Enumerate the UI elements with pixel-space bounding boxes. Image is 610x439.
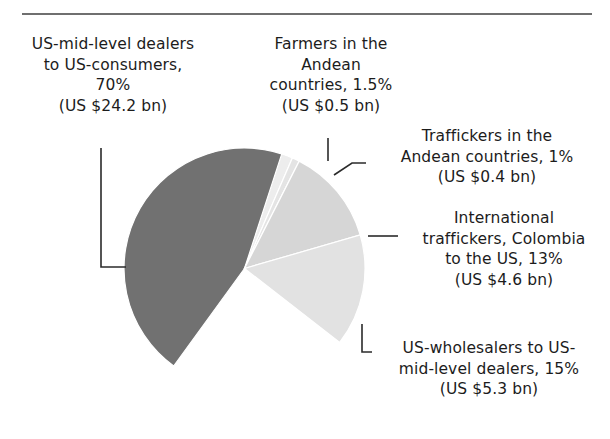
pie-chart-figure: US-mid-level dealers to US-consumers, 70… bbox=[0, 0, 610, 439]
slice-label-traffickers-andean: Traffickers in the Andean countries, 1% … bbox=[368, 126, 606, 188]
slice-label-international-traffickers: International traffickers, Colombia to t… bbox=[400, 208, 608, 290]
slice-label-us-wholesalers: US-wholesalers to US- mid-level dealers,… bbox=[370, 338, 608, 400]
slice-label-us-mid-level-dealers: US-mid-level dealers to US-consumers, 70… bbox=[8, 34, 218, 116]
leader-line-traffickers-andean bbox=[334, 163, 366, 175]
pie-slices-group bbox=[124, 148, 365, 366]
slice-label-farmers-andean: Farmers in the Andean countries, 1.5% (U… bbox=[242, 34, 420, 116]
leader-line-consumers bbox=[101, 148, 126, 267]
